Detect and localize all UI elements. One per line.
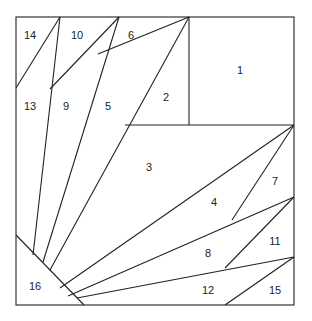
piece-label-12: 12: [202, 284, 214, 296]
piece-label-16: 16: [29, 280, 41, 292]
seam-6-5: [98, 17, 189, 54]
piece-label-3: 3: [146, 161, 152, 173]
block-border: [16, 17, 294, 305]
seam-10-9: [50, 17, 119, 89]
piece-label-5: 5: [105, 100, 111, 112]
seam-12-15: [225, 257, 294, 305]
piece-label-9: 9: [63, 100, 69, 112]
seam-8-11: [225, 197, 294, 268]
piece-label-7: 7: [272, 175, 278, 187]
piece-label-6: 6: [128, 29, 134, 41]
quilt-block-diagram: 12345678910111213141516: [0, 0, 312, 321]
piece-label-10: 10: [71, 29, 83, 41]
seam-9-5: [43, 17, 119, 262]
piece-label-4: 4: [211, 196, 217, 208]
piece-label-2: 2: [163, 91, 169, 103]
piece-label-14: 14: [24, 29, 36, 41]
piece-label-1: 1: [237, 64, 243, 76]
piece-label-15: 15: [269, 284, 281, 296]
piece-label-11: 11: [269, 235, 280, 247]
piece-label-13: 13: [24, 100, 36, 112]
seam-4-7: [232, 125, 294, 220]
piece-label-8: 8: [205, 247, 211, 259]
seam-5-2-3: [50, 17, 189, 270]
seam-16: [16, 235, 84, 305]
